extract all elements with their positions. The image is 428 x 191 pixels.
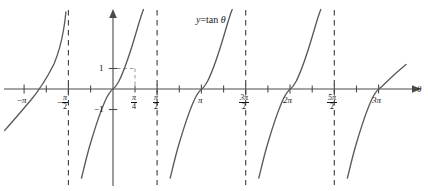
tangent-function-figure: y=tan θ θ −π − π 2 π 4 π 2 π 3π 2 2π 5π bbox=[0, 0, 428, 191]
x-axis-label: θ bbox=[417, 84, 421, 94]
tick-label-5pi-over-2: 5π 2 bbox=[327, 94, 337, 112]
tick-label-2pi: 2π bbox=[283, 96, 292, 105]
pi-half-denominator: 2 bbox=[153, 103, 159, 111]
tick-label-pi-over-4: π 4 bbox=[131, 94, 137, 112]
five-pi-half-denominator: 2 bbox=[327, 103, 337, 111]
tick-label-neg-one: −1 bbox=[94, 105, 104, 114]
title-function: tan bbox=[206, 14, 218, 25]
tick-label-one: 1 bbox=[99, 64, 104, 73]
tick-label-pi-over-2: π 2 bbox=[153, 94, 159, 112]
tick-label-3pi-over-2: 3π 2 bbox=[239, 94, 249, 112]
tick-label-3pi: 3π bbox=[372, 96, 381, 105]
tangent-branch-4 bbox=[259, 10, 321, 179]
neg-pi-half-denominator: 2 bbox=[62, 103, 68, 111]
tangent-branch-5 bbox=[347, 65, 406, 179]
pi-quarter-denominator: 4 bbox=[131, 103, 137, 111]
tangent-branch-3 bbox=[170, 10, 232, 179]
y-axis bbox=[109, 9, 117, 186]
tick-label-neg-pi: −π bbox=[17, 96, 27, 105]
tick-label-pi: π bbox=[198, 96, 203, 105]
neg-pi-symbol: π bbox=[22, 95, 27, 105]
plot-title: y=tan θ bbox=[196, 14, 226, 25]
tick-label-neg-pi-over-2: − π 2 bbox=[57, 94, 68, 112]
three-pi-half-denominator: 2 bbox=[239, 103, 249, 111]
x-axis bbox=[4, 85, 421, 93]
tangent-branch-1 bbox=[5, 12, 66, 131]
title-argument: θ bbox=[221, 14, 226, 25]
